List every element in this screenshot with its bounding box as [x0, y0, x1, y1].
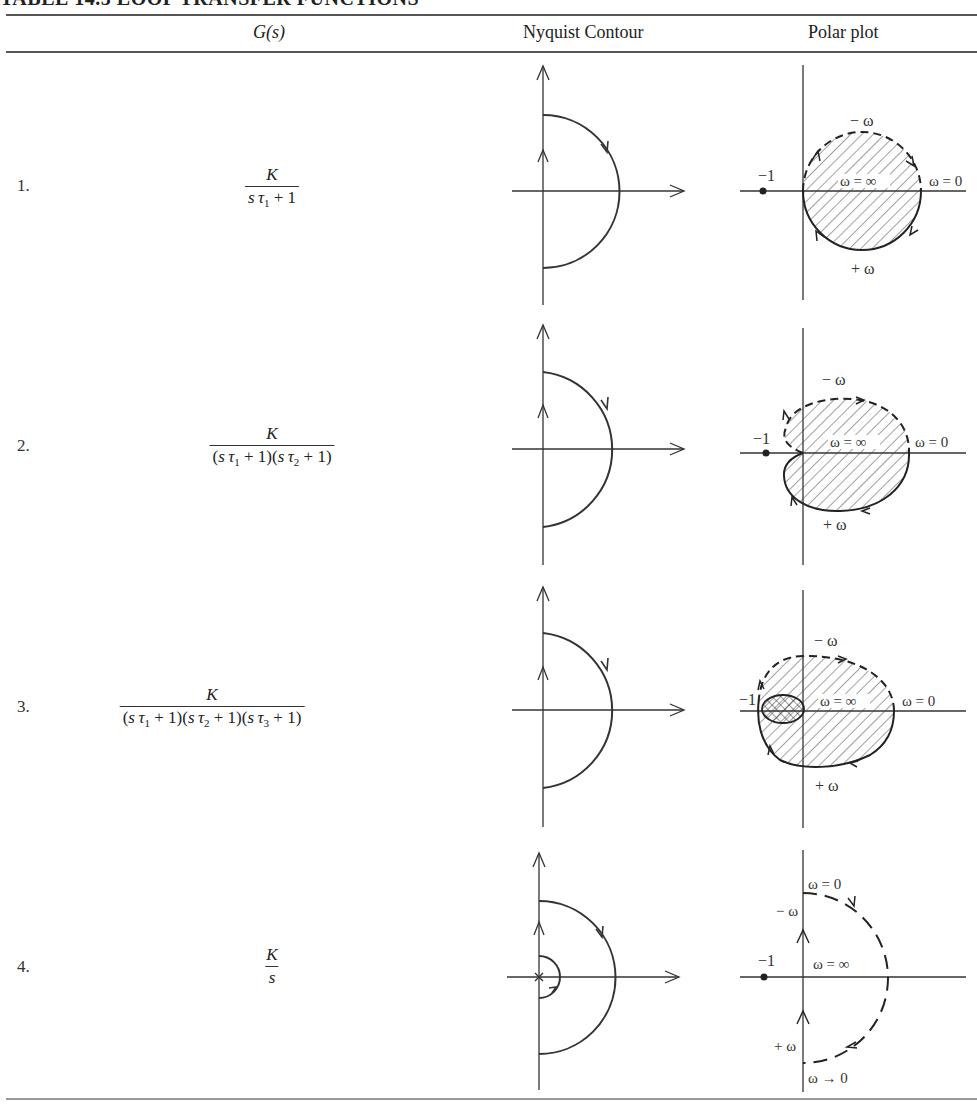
critical-point-label: −1 — [739, 691, 756, 708]
omega-infinity-label: ω = ∞ — [813, 956, 850, 972]
polar-plot-3: −1 − ω + ω ω = ∞ ω = 0 — [739, 590, 966, 828]
minus-omega-label: − ω — [814, 632, 838, 649]
nyquist-contour-4 — [507, 853, 679, 1090]
polar-plot-2: −1 − ω + ω ω = ∞ ω = 0 — [740, 328, 966, 565]
polar-plot-1: −1 − ω + ω ω = ∞ ω = 0 — [740, 65, 966, 300]
critical-point-label: −1 — [753, 430, 770, 447]
omega-to-zero-label: ω → 0 — [808, 1070, 848, 1086]
critical-point — [763, 450, 770, 457]
nyquist-contour-2 — [512, 325, 684, 565]
critical-point-label: −1 — [758, 167, 775, 184]
minus-omega-label: − ω — [822, 371, 846, 388]
minus-omega-label: − ω — [776, 903, 798, 919]
plus-omega-label: + ω — [774, 1038, 796, 1054]
minus-omega-label: − ω — [850, 112, 874, 129]
nyquist-contour-1 — [512, 66, 684, 305]
polar-plot-4: −1 ω = 0 − ω ω = ∞ + ω ω → 0 — [740, 850, 966, 1092]
omega-infinity-label: ω = ∞ — [840, 173, 877, 189]
omega-zero-label: ω = 0 — [902, 693, 935, 709]
omega-zero-label: ω = 0 — [929, 173, 962, 189]
omega-zero-label: ω = 0 — [915, 434, 948, 450]
critical-point — [761, 974, 768, 981]
critical-point — [760, 188, 767, 195]
diagram-canvas: −1 − ω + ω ω = ∞ ω = 0 −1 − ω + ω ω = ∞ … — [0, 0, 977, 1105]
plus-omega-label: + ω — [823, 516, 847, 533]
omega-infinity-label: ω = ∞ — [820, 693, 857, 709]
critical-point-label: −1 — [758, 952, 775, 969]
omega-zero-label: ω = 0 — [808, 876, 841, 892]
omega-infinity-label: ω = ∞ — [830, 434, 867, 450]
plus-omega-label: + ω — [815, 777, 839, 794]
nyquist-contour-3 — [512, 587, 684, 827]
plus-omega-label: + ω — [851, 260, 875, 277]
